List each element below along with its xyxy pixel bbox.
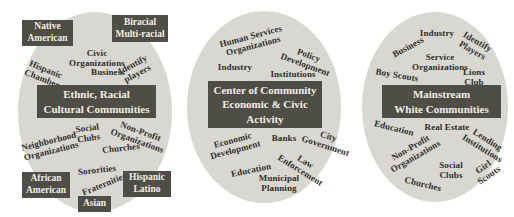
ellipse-label: Institutions [270, 69, 315, 79]
ellipse-label: Social Clubs [439, 160, 463, 180]
category-box: Hispanic Latino [123, 171, 171, 197]
category-box: Biracial Multi-racial [112, 15, 168, 42]
ellipse-label: Banks [272, 133, 297, 143]
category-box: Native American [22, 20, 73, 46]
ellipse-label: Industry [218, 62, 252, 72]
ethnic-racial-cultural-center-box: Ethnic, Racial Cultural Communities [37, 85, 156, 118]
center-of-community-center-box: Center of Community Economic & Civic Act… [208, 81, 322, 128]
community-diagram-canvas: Civic OrganizationsBusinessHispanic Cham… [0, 0, 514, 217]
mainstream-white-center-box: Mainstream White Communities [382, 85, 501, 118]
ellipse-label: Municipal Planning [259, 173, 299, 193]
ellipse-label: Industry [420, 28, 454, 38]
ellipse-label: Social Clubs [75, 121, 101, 144]
ellipse-label: Civic Organizations [69, 48, 125, 68]
category-box: Asian [78, 196, 111, 212]
category-box: African American [22, 172, 70, 198]
